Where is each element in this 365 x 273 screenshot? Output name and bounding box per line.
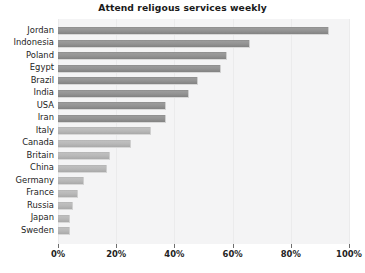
bar-iran[interactable] — [58, 115, 166, 123]
bar-britain[interactable] — [58, 152, 110, 160]
bar-russia[interactable] — [58, 202, 73, 210]
bar-row — [58, 88, 349, 101]
bar-usa[interactable] — [58, 102, 166, 110]
bar-india[interactable] — [58, 90, 189, 98]
bar-brazil[interactable] — [58, 77, 198, 85]
category-label-japan: Japan — [0, 212, 54, 222]
x-tick-0 — [58, 244, 59, 248]
bar-indonesia[interactable] — [58, 40, 250, 48]
category-label-italy: Italy — [0, 125, 54, 135]
bar-row — [58, 188, 349, 201]
x-tick-20 — [116, 244, 117, 248]
category-label-canada: Canada — [0, 137, 54, 147]
bar-row — [58, 38, 349, 51]
bar-row — [58, 213, 349, 226]
gridline-100 — [349, 19, 350, 244]
category-label-brazil: Brazil — [0, 75, 54, 85]
bars-layer — [58, 19, 349, 244]
x-tick-label-20: 20% — [106, 249, 126, 259]
bar-sweden[interactable] — [58, 227, 70, 235]
bar-france[interactable] — [58, 190, 78, 198]
category-label-egypt: Egypt — [0, 62, 54, 72]
x-tick-label-60: 60% — [223, 249, 243, 259]
category-label-jordan: Jordan — [0, 25, 54, 35]
bar-chart: Attend religous services weekly JordanIn… — [0, 0, 365, 273]
x-tick-100 — [349, 244, 350, 248]
x-tick-60 — [233, 244, 234, 248]
bar-row — [58, 176, 349, 189]
category-label-usa: USA — [0, 100, 54, 110]
chart-title: Attend religous services weekly — [0, 2, 365, 13]
x-tick-label-80: 80% — [281, 249, 301, 259]
category-label-iran: Iran — [0, 112, 54, 122]
category-axis-labels: JordanIndonesiaPolandEgyptBrazilIndiaUSA… — [0, 19, 54, 244]
bar-poland[interactable] — [58, 52, 227, 60]
bar-italy[interactable] — [58, 127, 151, 135]
bar-egypt[interactable] — [58, 65, 221, 73]
bar-japan[interactable] — [58, 215, 70, 223]
x-tick-label-40: 40% — [164, 249, 184, 259]
bar-row — [58, 151, 349, 164]
x-tick-40 — [174, 244, 175, 248]
x-axis-labels: 0%20%40%60%80%100% — [0, 249, 365, 263]
bar-jordan[interactable] — [58, 27, 329, 35]
bar-row — [58, 113, 349, 126]
category-label-russia: Russia — [0, 200, 54, 210]
bar-germany[interactable] — [58, 177, 84, 185]
category-label-germany: Germany — [0, 175, 54, 185]
category-label-poland: Poland — [0, 50, 54, 60]
bar-china[interactable] — [58, 165, 107, 173]
bar-row — [58, 163, 349, 176]
bar-row — [58, 26, 349, 39]
bar-row — [58, 76, 349, 89]
category-label-india: India — [0, 87, 54, 97]
bar-row — [58, 51, 349, 64]
x-tick-label-0: 0% — [51, 249, 65, 259]
bar-row — [58, 201, 349, 214]
plot-area — [58, 19, 349, 244]
bar-row — [58, 226, 349, 239]
category-label-sweden: Sweden — [0, 225, 54, 235]
category-label-france: France — [0, 187, 54, 197]
bar-row — [58, 126, 349, 139]
x-tick-label-100: 100% — [336, 249, 362, 259]
category-label-china: China — [0, 162, 54, 172]
bar-row — [58, 63, 349, 76]
bar-row — [58, 101, 349, 114]
bar-canada[interactable] — [58, 140, 131, 148]
bar-row — [58, 138, 349, 151]
category-label-indonesia: Indonesia — [0, 37, 54, 47]
x-axis-ticks — [58, 244, 349, 248]
x-tick-80 — [291, 244, 292, 248]
category-label-britain: Britain — [0, 150, 54, 160]
